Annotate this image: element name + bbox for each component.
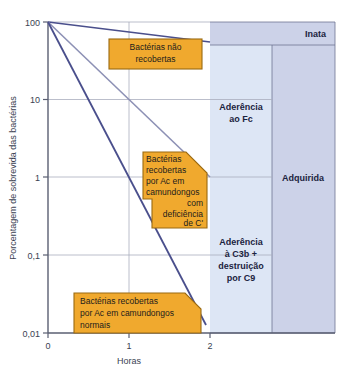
band-label-adquirida: Adquirida [282,173,325,183]
callout-normal-mice-line-2: por Ac em camundongos [80,308,174,318]
mechanism-c3b-line-4: por C9 [227,273,256,283]
callout-c-deficient-line-7: de C' [183,218,203,228]
x-tick-labels: 0 1 2 [45,341,212,351]
y-tick-label-1: 1 [35,173,40,183]
y-tick-label-0.1: 0,1 [27,251,40,261]
callout-uncoated-line-1: Bactérias não [130,42,182,52]
callout-normal-mice[interactable]: Bactérias recobertas por Ac em camundong… [74,293,201,333]
mechanism-c3b-line-1: Aderência [219,237,264,247]
callout-c-deficient-line-3: por Ac em [146,176,184,186]
mechanism-c3b-line-2: à C3b + [225,249,257,259]
callout-uncoated[interactable]: Bactérias não recobertas [109,39,202,69]
x-tick-label-0: 0 [45,341,50,351]
band-label-inata: Inata [305,29,327,39]
y-tick-label-0.01: 0,01 [22,329,40,339]
callout-c-deficient-line-1: Bactérias [146,154,181,164]
x-tick-label-2: 2 [207,341,212,351]
mechanism-c3b-line-3: destruição [218,261,264,271]
y-tick-label-100: 100 [25,18,40,28]
callout-uncoated-line-2: recobertas [135,54,175,64]
x-tick-label-1: 1 [126,341,131,351]
mechanism-fc-line-2: ao Fc [229,114,253,124]
callout-c-deficient-line-4: camundongos [146,187,199,197]
x-axis-title: Horas [117,356,142,366]
y-tick-labels: 100 10 1 0,1 0,01 [22,18,40,339]
callout-c-deficient[interactable]: Bactérias recobertas por Ac em camundong… [143,152,207,228]
figure-container: 100 10 1 0,1 0,01 0 1 2 Horas Porcentage… [0,0,345,373]
survival-curve-chart: 100 10 1 0,1 0,01 0 1 2 Horas Porcentage… [0,0,345,373]
callout-c-deficient-line-5: com [187,198,203,208]
callout-c-deficient-line-2: recobertas [146,165,186,175]
mechanism-fc-line-1: Aderência [219,102,264,112]
callout-normal-mice-line-3: normais [80,320,110,330]
panel-dark-column [272,45,335,333]
y-tick-label-10: 10 [30,95,40,105]
callout-normal-mice-line-1: Bactérias recobertas [80,296,158,306]
panel-light-column [210,45,272,333]
y-axis-title: Porcentagem de sobrevida das bactérias [8,96,18,260]
